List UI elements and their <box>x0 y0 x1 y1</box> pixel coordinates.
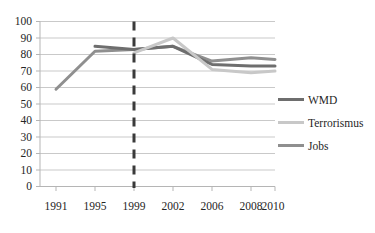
legend-item-wmd: WMD <box>278 88 374 111</box>
legend-item-jobs: Jobs <box>278 134 374 157</box>
legend-swatch-wmd <box>278 98 304 101</box>
legend-label: Jobs <box>308 140 328 152</box>
jobs-series <box>56 46 275 89</box>
y-axis-ticks <box>36 22 40 187</box>
x-axis-ticks <box>56 187 275 192</box>
legend-label: Terrorismus <box>308 117 363 129</box>
legend-label: WMD <box>308 94 337 106</box>
legend: WMD Terrorismus Jobs <box>278 88 374 157</box>
legend-item-terrorismus: Terrorismus <box>278 111 374 134</box>
legend-swatch-jobs <box>278 144 304 147</box>
line-chart: 100 90 80 70 60 50 40 30 20 10 0 1991 19… <box>0 0 375 233</box>
legend-swatch-terrorismus <box>278 121 304 124</box>
